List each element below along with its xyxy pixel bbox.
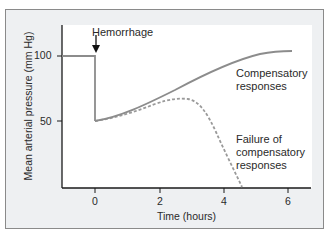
hemorrhage-arrow-icon: [92, 45, 100, 53]
x-axis-label: Time (hours): [157, 210, 216, 222]
compensatory-label-2: responses: [236, 80, 287, 92]
failure-curve: [95, 99, 242, 187]
x-tick-label-2: 2: [157, 196, 163, 207]
hemorrhage-label: Hemorrhage: [92, 26, 153, 38]
y-tick-label-100: 100: [34, 50, 52, 61]
y-axis-label: Mean arterial pressure (mm Hg): [22, 32, 34, 181]
failure-label-1: Failure of: [236, 133, 282, 145]
failure-label-3: responses: [236, 159, 287, 171]
x-tick-label-6: 6: [285, 196, 291, 207]
baseline-curve: [62, 56, 95, 121]
x-tick-label-0: 0: [92, 196, 98, 207]
failure-label-2: compensatory: [236, 146, 305, 158]
x-tick-label-4: 4: [221, 196, 227, 207]
y-tick-label-50: 50: [40, 116, 52, 127]
compensatory-label-1: Compensatory: [236, 67, 308, 79]
